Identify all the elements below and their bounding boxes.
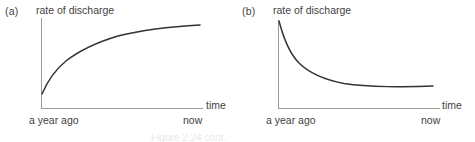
figure-container: (a) rate of discharge time a year ago no… bbox=[0, 0, 475, 142]
x-tick-start-b: a year ago bbox=[266, 114, 316, 126]
x-tick-end-b: now bbox=[421, 114, 440, 126]
x-axis-label-b: time bbox=[442, 99, 462, 111]
figure-caption-text: Figure 2.24 cont. bbox=[151, 134, 226, 142]
data-curve-b bbox=[279, 21, 433, 87]
x-tick-end-a: now bbox=[183, 114, 202, 126]
x-axis-label-a: time bbox=[206, 99, 226, 111]
chart-panel-a: (a) rate of discharge time a year ago no… bbox=[0, 0, 237, 142]
x-tick-start-a: a year ago bbox=[29, 114, 79, 126]
figure-caption-clipped: Figure 2.24 cont. bbox=[0, 134, 475, 142]
data-curve-a bbox=[42, 25, 200, 94]
chart-panel-b: (b) rate of discharge time a year ago no… bbox=[236, 0, 473, 142]
